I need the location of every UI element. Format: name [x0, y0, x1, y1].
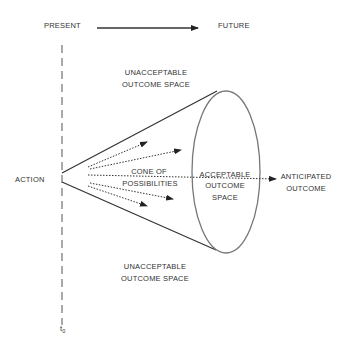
action-label: ACTION — [15, 175, 45, 184]
t0-subscript: 0 — [62, 328, 65, 334]
anticipated-label-line1: ANTICIPATED — [281, 172, 332, 181]
cone-upper-edge — [62, 91, 217, 173]
cone-label-line1: CONE OF — [131, 167, 167, 176]
cone-label-line2: POSSIBILITIES — [122, 179, 178, 188]
unacceptable-bottom-line1: UNACCEPTABLE — [124, 262, 186, 271]
unacceptable-bottom-line2: OUTCOME SPACE — [121, 274, 189, 283]
t0-label: t0 — [60, 324, 66, 334]
acceptable-label-line1: ACCEPTABLE — [199, 170, 250, 179]
anticipated-label-line2: OUTCOME — [286, 184, 326, 193]
unacceptable-top-line2: OUTCOME SPACE — [122, 80, 190, 89]
acceptable-label-line3: SPACE — [212, 193, 238, 202]
acceptable-label-line2: OUTCOME — [205, 181, 245, 190]
future-label: FUTURE — [218, 21, 250, 30]
unacceptable-top-line1: UNACCEPTABLE — [125, 68, 187, 77]
present-label: PRESENT — [44, 21, 81, 30]
possibility-arrow-4 — [88, 186, 147, 206]
cone-of-possibilities-diagram: PRESENT FUTURE UNACCEPTABLE OUTCOME SPAC… — [0, 0, 351, 351]
